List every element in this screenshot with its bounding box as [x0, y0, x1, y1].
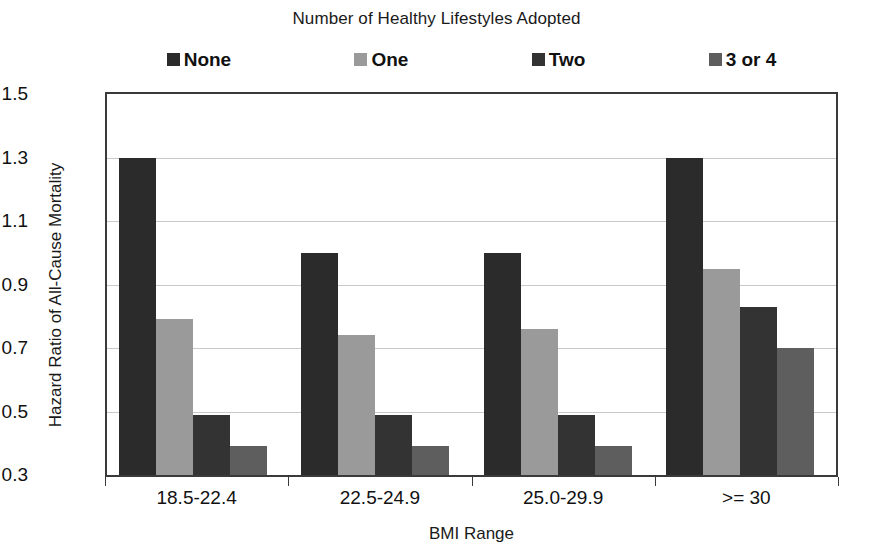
legend-item-two[interactable]: Two	[532, 50, 586, 69]
bar[interactable]	[558, 415, 595, 475]
bar[interactable]	[521, 329, 558, 475]
plot-area	[105, 92, 838, 477]
bar-group-inner	[119, 94, 267, 475]
bar[interactable]	[484, 253, 521, 475]
legend-item-one[interactable]: One	[354, 50, 408, 69]
x-axis-title: BMI Range	[105, 524, 838, 544]
bar[interactable]	[193, 415, 230, 475]
legend-item-none[interactable]: None	[167, 50, 232, 69]
chart-title: Number of Healthy Lifestyles Adopted	[0, 9, 873, 29]
y-tick-label: 0.9	[0, 274, 28, 296]
bar[interactable]	[119, 158, 156, 476]
bar-group	[472, 94, 654, 475]
x-tick-label: 18.5-22.4	[105, 487, 288, 509]
y-tick-label: 0.3	[0, 464, 28, 486]
x-tick-mark	[105, 477, 106, 486]
legend-swatch-one	[354, 53, 367, 66]
y-axis-title: Hazard Ratio of All-Cause Mortality	[46, 100, 66, 490]
legend-label-none: None	[184, 50, 232, 69]
x-tick-mark	[655, 477, 656, 486]
bar[interactable]	[703, 269, 740, 475]
x-tick-mark	[838, 477, 839, 486]
bar[interactable]	[777, 348, 814, 475]
x-tick-label: 22.5-24.9	[288, 487, 471, 509]
legend-label-two: Two	[549, 50, 586, 69]
x-tick-mark	[472, 477, 473, 486]
bar[interactable]	[740, 307, 777, 475]
chart-legend: None One Two 3 or 4	[105, 50, 838, 69]
bar-group-inner	[666, 94, 814, 475]
legend-swatch-3-or-4	[709, 53, 722, 66]
bar-group-inner	[484, 94, 632, 475]
bar-group-inner	[301, 94, 449, 475]
bar[interactable]	[666, 158, 703, 476]
y-tick-label: 0.5	[0, 401, 28, 423]
bar[interactable]	[338, 335, 375, 475]
bar[interactable]	[230, 446, 267, 475]
legend-swatch-none	[167, 53, 180, 66]
bar[interactable]	[301, 253, 338, 475]
x-tick-mark	[288, 477, 289, 486]
y-tick-label: 1.1	[0, 210, 28, 232]
legend-label-3-or-4: 3 or 4	[726, 50, 777, 69]
legend-label-one: One	[371, 50, 408, 69]
bar[interactable]	[412, 446, 449, 475]
x-tick-label: >= 30	[655, 487, 838, 509]
legend-item-3-or-4[interactable]: 3 or 4	[709, 50, 777, 69]
bar[interactable]	[375, 415, 412, 475]
bar-group	[289, 94, 471, 475]
bar-groups	[107, 94, 836, 475]
x-tick-label: 25.0-29.9	[472, 487, 655, 509]
bar[interactable]	[156, 319, 193, 475]
y-tick-label: 1.5	[0, 83, 28, 105]
y-tick-label: 1.3	[0, 147, 28, 169]
bar-group	[107, 94, 289, 475]
legend-swatch-two	[532, 53, 545, 66]
bar-group	[654, 94, 836, 475]
y-tick-label: 0.7	[0, 337, 28, 359]
bar[interactable]	[595, 446, 632, 475]
